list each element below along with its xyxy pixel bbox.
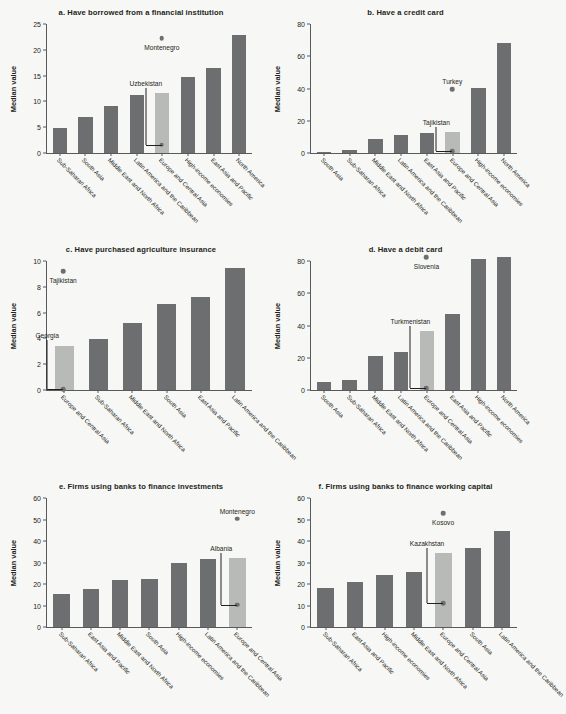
bar[interactable] — [394, 352, 408, 390]
bar[interactable] — [435, 553, 451, 627]
plot-area-f: Median value0102030405060KosovoKazakhsta… — [310, 498, 517, 628]
bar[interactable] — [406, 572, 422, 627]
x-label-slot: Latin America and the Caribbean — [388, 155, 414, 233]
bar[interactable] — [157, 304, 176, 390]
bar[interactable] — [376, 575, 392, 627]
y-tick-mark — [307, 56, 310, 57]
x-label-slot: High-income economies — [370, 629, 399, 707]
chart-panel-c: c. Have purchased agriculture insuranceM… — [0, 237, 264, 474]
bar[interactable] — [200, 559, 216, 627]
bar[interactable] — [55, 346, 74, 391]
bar[interactable] — [89, 339, 108, 390]
bar[interactable] — [368, 139, 382, 154]
bar[interactable] — [342, 380, 356, 390]
annotation-label-turkey: Turkey — [442, 78, 462, 85]
y-tick-mark — [43, 312, 46, 313]
y-tick-mark — [43, 75, 46, 76]
bar[interactable] — [53, 594, 69, 627]
bar[interactable] — [445, 314, 459, 390]
annotation-label-tajikistan: Tajikistan — [50, 277, 77, 284]
bar[interactable] — [225, 268, 244, 390]
bar-slot — [311, 261, 337, 390]
annotation-label-montenegro: Montenegro — [220, 507, 255, 514]
x-label-slot: East Asia and Pacific — [184, 392, 218, 470]
bar[interactable] — [171, 563, 187, 627]
y-tick-mark — [307, 584, 310, 585]
x-label-slot: South Asia — [311, 392, 337, 470]
x-label-slot: High-income economies — [164, 629, 193, 707]
bar-slot — [370, 498, 399, 627]
bar[interactable] — [112, 580, 128, 627]
bar[interactable] — [317, 588, 333, 627]
bar[interactable] — [53, 128, 67, 153]
y-axis-label: Median value — [9, 540, 18, 586]
bar[interactable] — [123, 323, 142, 390]
plot-area-c: Median value0246810TajikistanGeorgia — [46, 261, 252, 391]
x-label-slot: Europe and Central Asia — [414, 392, 440, 470]
bar[interactable] — [494, 531, 510, 627]
bar[interactable] — [420, 133, 434, 153]
x-label-slot: High-income economies — [466, 392, 492, 470]
annotation-label-kosovo: Kosovo — [432, 519, 454, 526]
x-axis-line — [310, 390, 517, 391]
bar[interactable] — [78, 117, 92, 153]
x-label-slot: Middle East and North Africa — [106, 629, 135, 707]
bar-slot — [47, 498, 76, 627]
plot-area-a: Median value0510152025MontenegroUzbekist… — [46, 24, 252, 154]
x-label-slot: South Asia — [135, 629, 164, 707]
bar-series — [311, 24, 517, 153]
bar-slot — [226, 24, 252, 153]
x-label-slot: North America — [491, 155, 517, 233]
bar[interactable] — [497, 43, 511, 153]
bar[interactable] — [471, 259, 485, 390]
bar[interactable] — [83, 589, 99, 627]
bar[interactable] — [465, 548, 481, 627]
x-axis-line — [310, 153, 517, 154]
y-tick-mark — [43, 49, 46, 50]
bar-slot — [193, 498, 222, 627]
y-tick-mark — [43, 519, 46, 520]
bar-slot — [488, 498, 517, 627]
y-tick-mark — [43, 541, 46, 542]
x-axis-tick-label: North America — [500, 394, 532, 426]
bar[interactable] — [497, 257, 511, 390]
bar[interactable] — [394, 135, 408, 153]
bar[interactable] — [181, 77, 195, 153]
bar[interactable] — [229, 558, 245, 627]
y-axis-label: Median value — [9, 303, 18, 349]
y-axis-label: Median value — [273, 303, 282, 349]
bar[interactable] — [347, 582, 363, 627]
bar[interactable] — [471, 88, 485, 153]
x-label-slot: East Asia and Pacific — [414, 155, 440, 233]
bar[interactable] — [141, 579, 157, 627]
bar-series — [311, 261, 517, 390]
annotation-label-kazakhstan: Kazakhstan — [410, 539, 444, 546]
bar-slot — [201, 24, 227, 153]
bar-slot — [466, 24, 492, 153]
bar[interactable] — [420, 331, 434, 390]
bar[interactable] — [191, 297, 210, 390]
x-label-slot: Sub-Saharan Africa — [47, 629, 76, 707]
annotation-leader-horizontal — [427, 603, 443, 604]
x-axis-labels: Europe and Central AsiaSub-Saharan Afric… — [47, 392, 252, 470]
bar-slot — [363, 24, 389, 153]
bar[interactable] — [206, 68, 220, 153]
panel-title-b: b. Have a credit card — [264, 8, 529, 17]
bar-slot — [81, 261, 115, 390]
bar[interactable] — [317, 382, 331, 390]
x-label-slot: High-income economies — [175, 155, 201, 233]
bar[interactable] — [104, 106, 118, 153]
y-tick-mark — [43, 261, 46, 262]
bar-slot — [311, 24, 337, 153]
bar[interactable] — [368, 356, 382, 391]
y-tick-mark — [43, 584, 46, 585]
bar[interactable] — [232, 35, 246, 153]
x-label-slot: Europe and Central Asia — [47, 392, 81, 470]
x-label-slot: Sub-Saharan Africa — [47, 155, 73, 233]
plot-area-e: Median value0102030405060MontenegroAlban… — [46, 498, 252, 628]
chart-panel-f: f. Firms using banks to finance working … — [264, 474, 529, 714]
x-label-slot: South Asia — [73, 155, 99, 233]
bar[interactable] — [130, 95, 144, 153]
y-tick-mark — [307, 627, 310, 628]
